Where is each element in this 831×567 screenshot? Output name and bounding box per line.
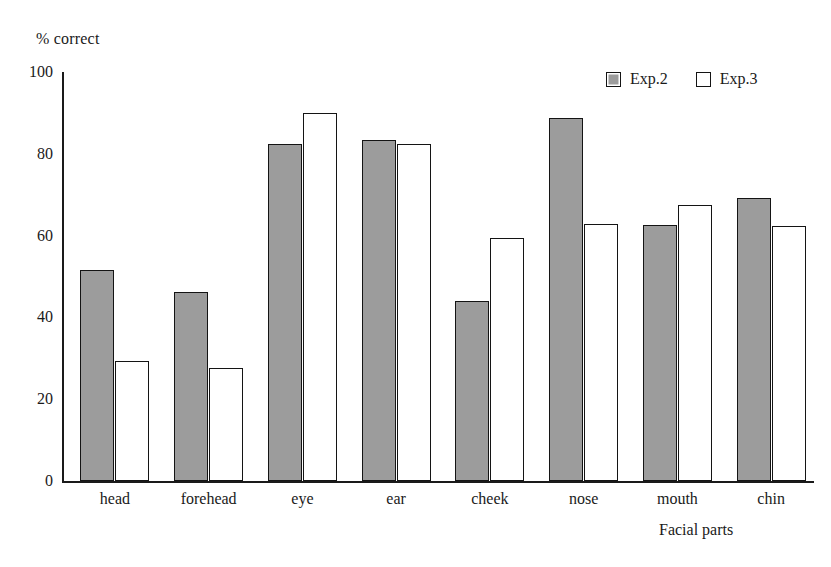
bar-eye-exp2 xyxy=(268,144,302,481)
x-axis-title: Facial parts xyxy=(659,521,733,539)
x-axis-label-forehead: forehead xyxy=(181,490,237,508)
x-axis-label-head: head xyxy=(100,490,130,508)
bar-cheek-exp2 xyxy=(455,301,489,481)
bar-eye-exp3 xyxy=(303,113,337,482)
x-axis-line xyxy=(62,481,814,483)
bar-mouth-exp2 xyxy=(643,225,677,481)
bar-group-chin xyxy=(737,72,806,481)
x-axis-label-nose: nose xyxy=(569,490,598,508)
bar-nose-exp3 xyxy=(584,224,618,481)
y-axis-tick-label: 20 xyxy=(37,390,62,408)
bar-forehead-exp3 xyxy=(209,368,243,481)
y-axis-tick-label: 60 xyxy=(37,227,62,245)
bar-chin-exp2 xyxy=(737,198,771,481)
bar-group-mouth xyxy=(643,72,712,481)
bar-group-nose xyxy=(549,72,618,481)
bar-chart-figure: % correct Exp.2 Exp.3 020406080100 headf… xyxy=(0,0,831,567)
x-axis-label-chin: chin xyxy=(757,490,785,508)
y-axis-tick-label: 100 xyxy=(29,63,62,81)
bar-group-eye xyxy=(268,72,337,481)
bar-group-head xyxy=(80,72,149,481)
bar-mouth-exp3 xyxy=(678,205,712,481)
y-axis-tick-label: 40 xyxy=(37,308,62,326)
bar-ear-exp3 xyxy=(397,144,431,481)
x-axis-label-ear: ear xyxy=(386,490,406,508)
bar-group-ear xyxy=(362,72,431,481)
bar-group-cheek xyxy=(455,72,524,481)
x-axis-label-mouth: mouth xyxy=(657,490,698,508)
plot-area: 020406080100 headforeheadeyeearcheeknose… xyxy=(62,72,814,481)
x-axis-label-cheek: cheek xyxy=(471,490,508,508)
x-axis-label-eye: eye xyxy=(291,490,313,508)
bar-forehead-exp2 xyxy=(174,292,208,481)
bar-cheek-exp3 xyxy=(490,238,524,481)
y-axis-tick-label: 80 xyxy=(37,145,62,163)
bar-head-exp2 xyxy=(80,270,114,481)
bar-chin-exp3 xyxy=(772,226,806,481)
bar-group-forehead xyxy=(174,72,243,481)
y-axis-tick-label: 0 xyxy=(45,472,62,490)
y-axis-title: % correct xyxy=(36,30,100,48)
bar-head-exp3 xyxy=(115,361,149,481)
bar-series-container xyxy=(64,72,814,481)
bar-ear-exp2 xyxy=(362,140,396,481)
bar-nose-exp2 xyxy=(549,118,583,481)
